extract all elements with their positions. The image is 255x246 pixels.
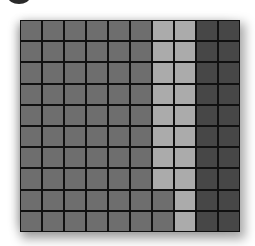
grid-cell [131, 21, 151, 40]
grid-cell [43, 85, 63, 104]
grid-cell [197, 63, 217, 82]
grid-cell [131, 63, 151, 82]
grid-cell [175, 127, 195, 146]
grid-cell [21, 63, 41, 82]
grid-cell [109, 212, 129, 231]
grid-cell [197, 85, 217, 104]
grid-cell [87, 63, 107, 82]
grid-cell [87, 127, 107, 146]
corner-shape [8, 0, 30, 4]
grid-cell [87, 42, 107, 61]
grid-cell [109, 148, 129, 167]
grid-cell [21, 212, 41, 231]
grid-cell [153, 42, 173, 61]
grid-cell [43, 148, 63, 167]
grid-cell [197, 191, 217, 210]
grid-cell [175, 85, 195, 104]
grid-cell [43, 127, 63, 146]
grid-cell [109, 191, 129, 210]
grid-cell [65, 212, 85, 231]
grid-cell [87, 106, 107, 125]
grid-cell [65, 42, 85, 61]
grid-cell [65, 21, 85, 40]
grid-cell [65, 191, 85, 210]
grid-cell [219, 21, 239, 40]
grid-cell [153, 63, 173, 82]
grid-cell [131, 212, 151, 231]
grid-cell [219, 106, 239, 125]
grid-cell [65, 148, 85, 167]
grid-cell [21, 148, 41, 167]
grid-cell [131, 106, 151, 125]
grid-cell [109, 42, 129, 61]
grid-cell [197, 106, 217, 125]
grid-cell [65, 106, 85, 125]
grid-cell [43, 191, 63, 210]
grid-cell [109, 169, 129, 188]
grid-cell [219, 148, 239, 167]
grid-cell [87, 148, 107, 167]
grid-cell [131, 42, 151, 61]
grid-cell [219, 191, 239, 210]
grid-cell [43, 212, 63, 231]
grid-cell [43, 63, 63, 82]
square-grid [20, 20, 240, 232]
grid-cell [175, 106, 195, 125]
grid-cell [219, 212, 239, 231]
grid-cell [21, 85, 41, 104]
grid-cell [65, 127, 85, 146]
grid-cell [131, 169, 151, 188]
grid-cell [197, 42, 217, 61]
grid-cell [175, 169, 195, 188]
grid-cell [153, 21, 173, 40]
grid-cell [21, 169, 41, 188]
grid-cell [175, 63, 195, 82]
grid-cell [21, 191, 41, 210]
grid-cell [87, 191, 107, 210]
grid-cell [175, 148, 195, 167]
grid-cell [131, 127, 151, 146]
grid-cell [131, 148, 151, 167]
grid-cell [175, 212, 195, 231]
grid-cell [43, 169, 63, 188]
grid-cell [219, 127, 239, 146]
grid-cell [197, 169, 217, 188]
grid-cell [153, 169, 173, 188]
grid-cell [65, 63, 85, 82]
grid-cell [197, 127, 217, 146]
grid-cell [87, 212, 107, 231]
grid-cell [153, 106, 173, 125]
grid-cell [175, 21, 195, 40]
grid-cell [219, 85, 239, 104]
grid-cell [219, 169, 239, 188]
grid-cell [109, 85, 129, 104]
grid-cell [65, 169, 85, 188]
grid-cell [131, 85, 151, 104]
grid-cell [219, 42, 239, 61]
grid-cell [43, 21, 63, 40]
grid-cell [21, 106, 41, 125]
grid-cell [219, 63, 239, 82]
grid-cell [175, 42, 195, 61]
grid-cell [87, 85, 107, 104]
grid-cell [153, 85, 173, 104]
grid-cell [21, 21, 41, 40]
grid-cell [109, 127, 129, 146]
grid-cell [153, 127, 173, 146]
grid-cell [153, 212, 173, 231]
grid-cell [65, 85, 85, 104]
grid-cell [87, 21, 107, 40]
grid-cell [131, 191, 151, 210]
grid-cell [153, 191, 173, 210]
grid-cell [21, 127, 41, 146]
grid-cell [109, 106, 129, 125]
grid-cell [197, 21, 217, 40]
grid-cell [43, 42, 63, 61]
grid-cell [153, 148, 173, 167]
grid-cell [197, 148, 217, 167]
grid-cell [197, 212, 217, 231]
grid-cell [109, 21, 129, 40]
grid-cell [175, 191, 195, 210]
grid-cell [87, 169, 107, 188]
grid-cell [109, 63, 129, 82]
